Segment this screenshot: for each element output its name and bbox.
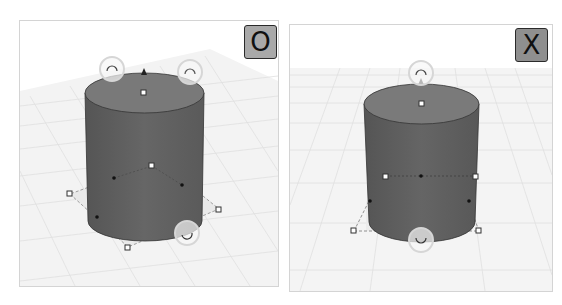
rotate-handle-top-left[interactable]: [100, 57, 124, 81]
viewport-panel-correct: O: [19, 20, 279, 287]
top-center-handle[interactable]: [419, 101, 424, 106]
corner-handle-right[interactable]: [476, 228, 481, 233]
rotate-handle-top[interactable]: [409, 61, 433, 85]
rotate-handle-bottom-right[interactable]: [175, 221, 199, 245]
badge-incorrect: X: [515, 28, 548, 62]
rotate-handle-bottom[interactable]: [409, 228, 433, 252]
side-handle-right[interactable]: [473, 174, 478, 179]
badge-label: X: [523, 32, 541, 58]
cylinder-body[interactable]: [85, 93, 204, 241]
rotate-handle-top-right[interactable]: [178, 60, 202, 84]
viewport-canvas: [290, 25, 552, 291]
corner-handle-right[interactable]: [216, 207, 221, 212]
badge-correct: O: [244, 25, 277, 59]
badge-label: O: [250, 29, 270, 55]
cylinder-body[interactable]: [364, 104, 479, 242]
center-handle[interactable]: [149, 163, 154, 168]
side-handle-left[interactable]: [383, 174, 388, 179]
corner-handle-left[interactable]: [351, 228, 356, 233]
viewport-canvas: [20, 21, 278, 286]
top-center-handle[interactable]: [141, 90, 146, 95]
corner-handle-left[interactable]: [67, 191, 72, 196]
corner-handle-bottom[interactable]: [125, 245, 130, 250]
viewport-panel-incorrect: X: [289, 24, 553, 292]
